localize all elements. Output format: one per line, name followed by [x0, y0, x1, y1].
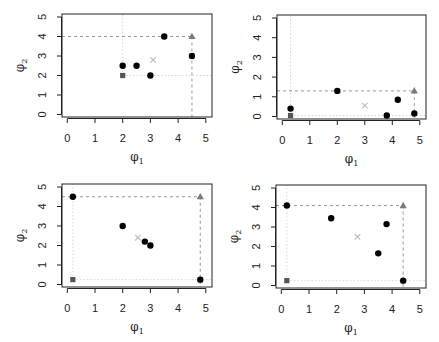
- series-points: [120, 33, 196, 78]
- cross-marker: [150, 57, 156, 63]
- y-axis: 012345φ2: [13, 184, 62, 288]
- y-tick-label: 5: [250, 185, 262, 191]
- y-tick-label: 4: [251, 35, 263, 41]
- x-tick-label: 1: [306, 303, 312, 315]
- x-tick-label: 3: [361, 303, 367, 315]
- data-point: [189, 53, 195, 59]
- series-triangle-marker: [188, 33, 195, 39]
- x-tick-label: 1: [307, 134, 313, 146]
- data-point: [287, 105, 293, 111]
- x-tick-label: 0: [278, 303, 284, 315]
- y-axis-title: φ2: [227, 230, 243, 244]
- x-tick-label: 4: [175, 132, 181, 144]
- series-points: [284, 202, 407, 283]
- x-axis: 012345φ1: [278, 290, 423, 338]
- data-point: [120, 223, 126, 229]
- y-tick-label: 3: [36, 223, 48, 229]
- y-axis-title: φ2: [13, 229, 29, 243]
- panel-top-right: 012345φ1012345φ2: [228, 15, 426, 168]
- x-tick-label: 0: [279, 134, 285, 146]
- x-tick-label: 3: [147, 132, 153, 144]
- y-axis-title-subscript: 2: [20, 59, 29, 64]
- reference-lines: [62, 184, 212, 287]
- data-point: [147, 242, 153, 248]
- square-marker: [288, 113, 293, 118]
- x-tick-label: 4: [389, 134, 395, 146]
- x-axis-title-symbol: φ: [344, 321, 352, 335]
- data-point: [120, 63, 126, 69]
- y-tick-label: 4: [36, 203, 48, 209]
- y-tick-label: 1: [36, 92, 48, 98]
- data-point: [147, 72, 153, 78]
- x-tick-label: 0: [64, 132, 70, 144]
- y-tick-label: 4: [250, 204, 262, 210]
- series-cross-marker: [135, 235, 141, 241]
- y-tick-label: 0: [250, 282, 262, 288]
- square-marker: [120, 73, 125, 78]
- x-axis-title-symbol: φ: [345, 152, 353, 166]
- x-axis-title: φ1: [345, 152, 359, 168]
- y-tick-label: 0: [36, 281, 48, 287]
- x-tick-label: 5: [417, 303, 423, 315]
- y-axis-title-subscript: 2: [235, 60, 244, 65]
- y-tick-label: 2: [251, 74, 263, 80]
- y-tick-label: 1: [36, 262, 48, 268]
- y-axis-title-subscript: 2: [234, 230, 243, 235]
- x-axis: 012345φ1: [64, 119, 209, 167]
- data-point: [161, 33, 167, 39]
- x-axis-title-subscript: 1: [353, 159, 358, 168]
- series-points: [70, 194, 204, 283]
- y-axis-title: φ2: [13, 59, 29, 73]
- y-axis-title-symbol: φ: [13, 64, 27, 72]
- x-axis-title-symbol: φ: [130, 150, 138, 164]
- data-point: [384, 112, 390, 118]
- y-tick-label: 3: [36, 53, 48, 59]
- x-tick-label: 2: [334, 303, 340, 315]
- data-point: [133, 63, 139, 69]
- data-point: [284, 202, 290, 208]
- x-axis-title: φ1: [344, 321, 358, 337]
- data-point: [383, 221, 389, 227]
- y-axis-title-symbol: φ: [13, 234, 27, 242]
- x-axis: 012345φ1: [279, 121, 423, 169]
- panel-bottom-right: 012345φ1012345φ2: [227, 185, 426, 337]
- y-tick-label: 0: [36, 111, 48, 117]
- figure-canvas: 012345φ1012345φ2 012345φ1012345φ2 012345…: [0, 0, 439, 342]
- x-axis-title: φ1: [130, 150, 144, 166]
- x-tick-label: 5: [417, 134, 423, 146]
- y-axis: 012345φ2: [13, 14, 62, 118]
- x-tick-label: 2: [120, 132, 126, 144]
- y-tick-label: 4: [36, 33, 48, 39]
- triangle-marker: [411, 87, 418, 93]
- x-tick-label: 3: [362, 134, 368, 146]
- y-tick-label: 1: [251, 94, 263, 100]
- y-tick-label: 2: [36, 242, 48, 248]
- cross-marker: [362, 103, 368, 109]
- x-axis-title: φ1: [130, 320, 144, 336]
- series-square-marker: [120, 73, 125, 78]
- series-triangle-marker: [411, 87, 418, 93]
- data-point: [411, 110, 417, 116]
- series-cross-marker: [362, 103, 368, 109]
- y-tick-label: 5: [36, 14, 48, 20]
- series-triangle-marker: [197, 193, 204, 199]
- x-axis-title-subscript: 1: [139, 157, 144, 166]
- x-tick-label: 1: [92, 132, 98, 144]
- series-cross-marker: [355, 234, 361, 240]
- plot-box: [277, 15, 426, 119]
- triangle-marker: [400, 202, 407, 208]
- x-axis-title-symbol: φ: [130, 320, 138, 334]
- y-axis-title-symbol: φ: [227, 235, 241, 243]
- square-marker: [284, 278, 289, 283]
- data-point: [395, 97, 401, 103]
- series-cross-marker: [150, 57, 156, 63]
- x-tick-label: 4: [175, 302, 181, 314]
- series-square-marker: [70, 277, 75, 282]
- x-axis-title-subscript: 1: [139, 327, 144, 336]
- y-tick-label: 5: [36, 184, 48, 190]
- y-tick-label: 1: [250, 263, 262, 269]
- y-tick-label: 0: [251, 113, 263, 119]
- x-tick-label: 5: [203, 132, 209, 144]
- reference-lines: [277, 15, 426, 119]
- y-tick-label: 5: [251, 15, 263, 21]
